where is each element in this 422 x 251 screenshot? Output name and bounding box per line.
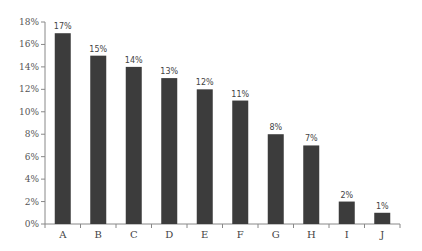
x-category-label: I xyxy=(345,229,349,240)
bar-value-label: 8% xyxy=(269,123,282,132)
y-tick-label: 14% xyxy=(19,62,39,72)
bar-value-label: 15% xyxy=(89,45,107,54)
y-tick-label: 6% xyxy=(25,152,40,162)
bar-value-label: 13% xyxy=(160,67,178,76)
bar-b xyxy=(90,56,106,224)
bar-d xyxy=(161,78,177,224)
bar-value-label: 1% xyxy=(376,202,389,211)
x-category-label: F xyxy=(237,229,244,240)
x-category-label: C xyxy=(130,229,138,240)
y-tick-label: 2% xyxy=(25,197,40,207)
bar-value-label: 7% xyxy=(305,134,318,143)
bar-value-label: 12% xyxy=(196,78,214,87)
bar-value-label: 14% xyxy=(125,56,143,65)
bar-e xyxy=(197,89,213,224)
y-tick-label: 12% xyxy=(19,84,39,94)
x-category-label: G xyxy=(272,229,280,240)
x-category-label: J xyxy=(379,229,384,240)
y-tick-label: 18% xyxy=(19,17,39,27)
bar-h xyxy=(303,145,319,224)
x-axis: ABCDEFGHIJ xyxy=(45,224,400,240)
bar-g xyxy=(268,134,284,224)
x-category-label: D xyxy=(165,229,173,240)
bar-value-label: 11% xyxy=(231,90,249,99)
y-tick-label: 8% xyxy=(25,129,40,139)
y-tick-label: 4% xyxy=(25,174,40,184)
bar-f xyxy=(232,101,248,224)
bar-value-label: 2% xyxy=(340,191,353,200)
y-tick-label: 10% xyxy=(19,107,39,117)
bar-value-label: 17% xyxy=(54,22,72,31)
bar-a xyxy=(55,33,71,224)
y-tick-label: 16% xyxy=(19,39,39,49)
bars: 17%15%14%13%12%11%8%7%2%1% xyxy=(54,22,390,224)
bar-chart: 0%2%4%6%8%10%12%14%16%18% ABCDEFGHIJ 17%… xyxy=(0,0,422,251)
bar-j xyxy=(374,213,390,224)
bar-c xyxy=(126,67,142,224)
y-axis: 0%2%4%6%8%10%12%14%16%18% xyxy=(19,17,45,229)
x-category-label: H xyxy=(307,229,316,240)
x-category-label: A xyxy=(58,229,67,240)
x-category-label: B xyxy=(95,229,102,240)
x-category-label: E xyxy=(201,229,208,240)
bar-i xyxy=(339,202,355,224)
y-tick-label: 0% xyxy=(25,219,40,229)
